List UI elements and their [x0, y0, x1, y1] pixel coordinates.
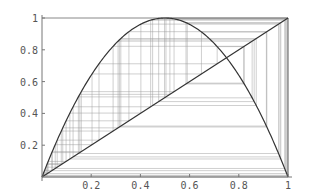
x-tick-label: 0.8: [230, 180, 248, 191]
y-tick-label: 0.6: [20, 77, 38, 88]
x-tick-label: 0.4: [131, 180, 149, 191]
x-tick-label: 1: [285, 180, 291, 191]
y-tick-label: 0.4: [20, 108, 38, 119]
y-tick-label: 0.2: [20, 140, 38, 151]
cobweb-chart: 0.20.40.60.81 0.20.40.60.81: [0, 0, 309, 195]
x-tick-label: 0.2: [82, 180, 100, 191]
y-tick-label: 0.8: [20, 45, 38, 56]
y-tick-label: 1: [32, 13, 38, 24]
x-tick-label: 0.6: [181, 180, 199, 191]
identity-line: [42, 18, 288, 177]
y-axis-ticks: 0.20.40.60.81: [20, 13, 45, 151]
